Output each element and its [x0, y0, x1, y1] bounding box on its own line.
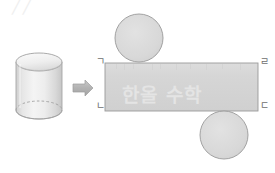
corner-label-top-left: ㄱ [96, 57, 105, 67]
corner-label-top-right: ㄹ [260, 57, 269, 67]
arrow-shape [73, 80, 93, 96]
diagram-canvas: 한올 수학 ╱╱ ㄱ ㄹ ㄴ ㄷ [0, 0, 275, 173]
corner-label-bottom-right: ㄷ [260, 101, 269, 111]
transform-arrow-icon [73, 80, 93, 96]
corner-label-bottom-left: ㄴ [96, 101, 105, 111]
watermark-corner: ╱╱ [12, 0, 33, 15]
bottom-base-circle [200, 111, 248, 159]
watermark-center: 한올 수학 [122, 80, 202, 107]
cylinder-solid [16, 53, 62, 119]
top-base-circle [115, 14, 163, 62]
